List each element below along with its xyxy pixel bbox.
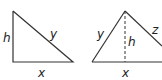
label-x-left: x: [37, 66, 46, 80]
label-y-right: y: [96, 27, 105, 41]
triangles-diagram: h y x y h z x: [0, 0, 162, 80]
label-h-left: h: [3, 31, 11, 45]
triangle-with-altitude: y h z x: [92, 11, 162, 80]
right-triangle-outline: [13, 11, 73, 62]
label-y-left: y: [49, 27, 58, 41]
label-z-right: z: [151, 23, 159, 37]
right-triangle: h y x: [3, 11, 73, 80]
label-h-right: h: [128, 35, 136, 49]
label-x-right: x: [121, 66, 130, 80]
